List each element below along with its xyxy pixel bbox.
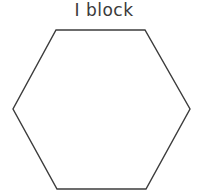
hexagon-block bbox=[0, 0, 208, 196]
hexagon-outline bbox=[13, 30, 190, 189]
